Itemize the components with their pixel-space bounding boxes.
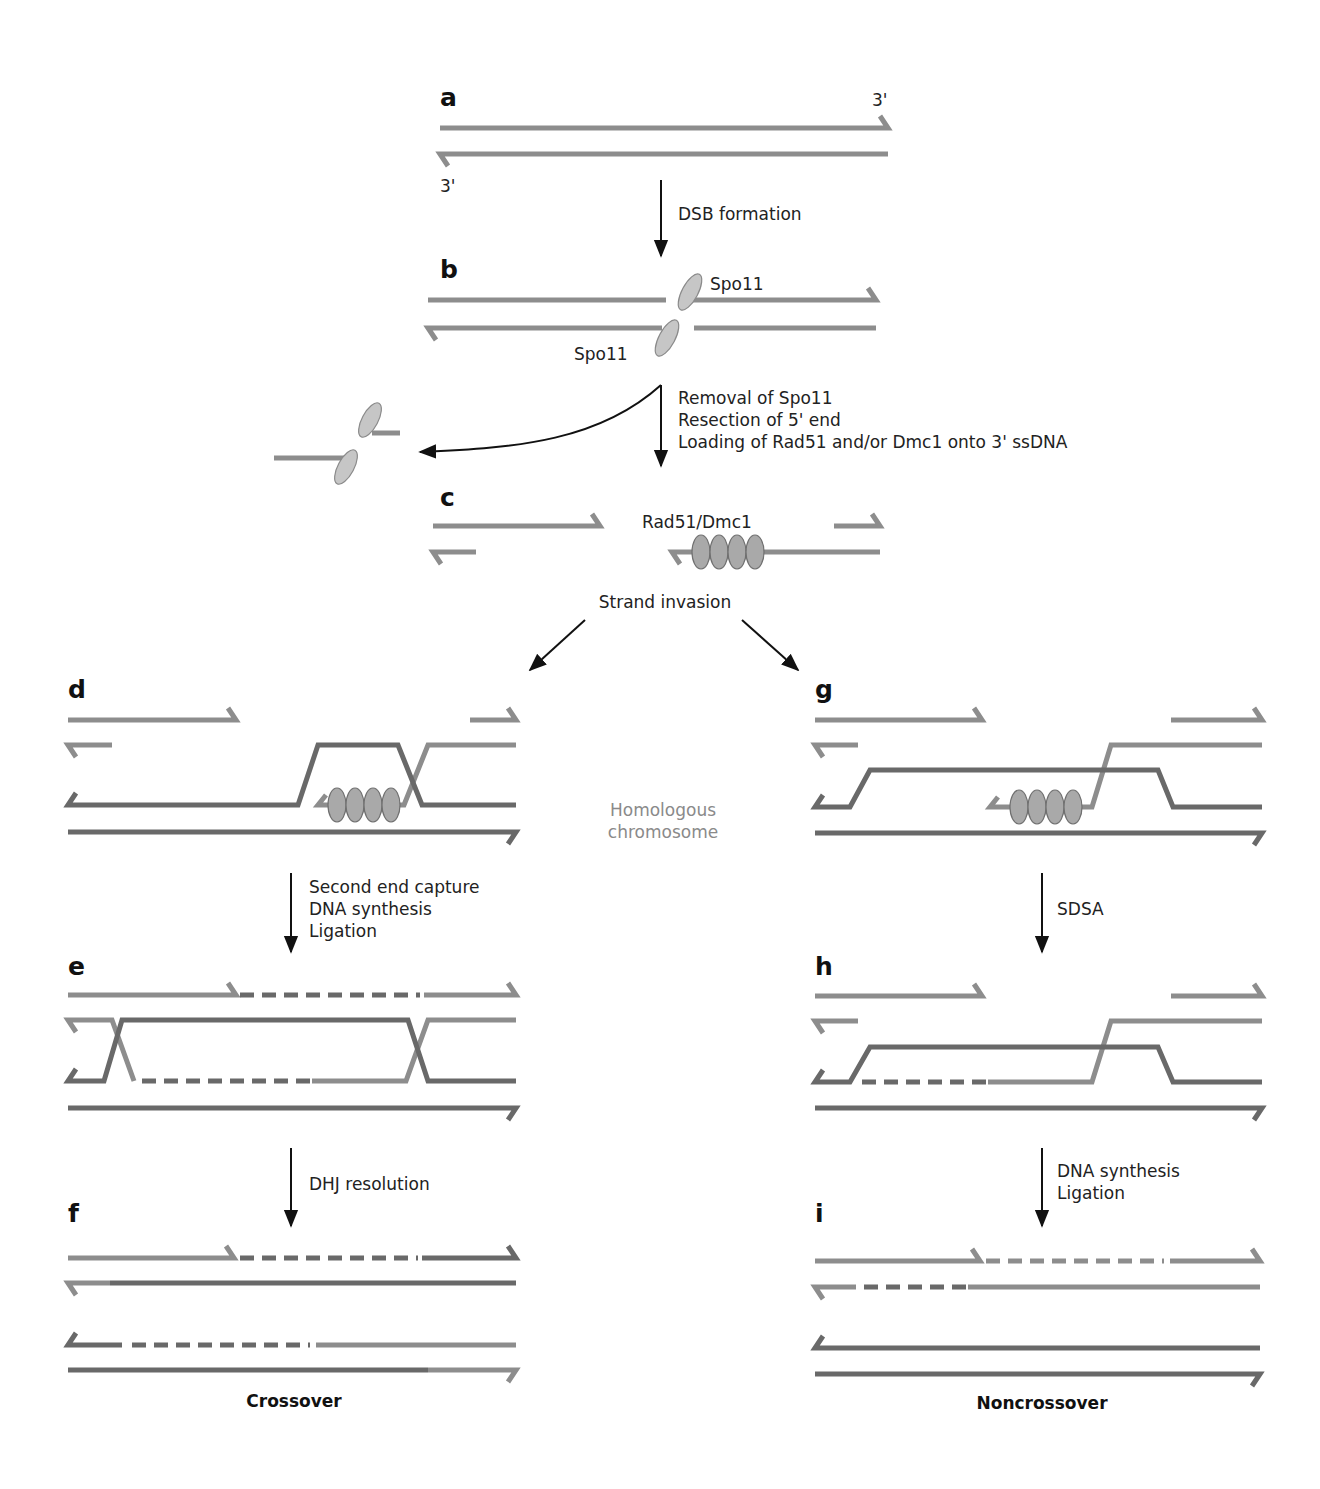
step-label: Ligation bbox=[1057, 1183, 1125, 1203]
dna-strand bbox=[834, 514, 880, 526]
rad51-filament-icon bbox=[692, 535, 764, 569]
dna-strand bbox=[424, 983, 516, 995]
panel-i: i Noncrossover bbox=[815, 1199, 1260, 1413]
step-label: SDSA bbox=[1057, 899, 1104, 919]
strand-invasion-label: Strand invasion bbox=[599, 592, 732, 612]
spo11-label: Spo11 bbox=[710, 274, 764, 294]
panel-f: f Crossover bbox=[68, 1199, 516, 1411]
dna-strand-top bbox=[440, 116, 888, 128]
step-label: DNA synthesis bbox=[1057, 1161, 1180, 1181]
extended-invading-strand bbox=[988, 1021, 1262, 1082]
dna-strand bbox=[815, 1249, 980, 1261]
dna-strand bbox=[815, 708, 982, 720]
homolog-strand bbox=[815, 1108, 1262, 1120]
rad51-dmc1-label: Rad51/Dmc1 bbox=[642, 512, 752, 532]
rad51-filament-icon bbox=[1010, 790, 1082, 824]
spo11-protein-icon bbox=[674, 271, 707, 314]
homolog-strand bbox=[815, 833, 1262, 845]
released-spo11-oligos bbox=[274, 399, 400, 487]
dna-strand bbox=[68, 1333, 122, 1345]
dna-strand bbox=[428, 1370, 516, 1382]
crossover-label: Crossover bbox=[246, 1391, 342, 1411]
dna-strand bbox=[815, 984, 982, 996]
homologous-chromosome-label: Homologous bbox=[610, 800, 716, 820]
panel-letter: c bbox=[440, 483, 455, 512]
dna-strand bbox=[68, 745, 112, 757]
homolog-strand bbox=[815, 1374, 1260, 1386]
dna-strand bbox=[470, 708, 516, 720]
spo11-protein-icon bbox=[330, 446, 362, 487]
dna-strand bbox=[1170, 1249, 1260, 1261]
step-label: Ligation bbox=[309, 921, 377, 941]
dna-strand bbox=[68, 1283, 110, 1295]
noncrossover-label: Noncrossover bbox=[976, 1393, 1108, 1413]
spo11-protein-icon bbox=[651, 317, 684, 360]
panel-a: a 3' 3' bbox=[440, 83, 888, 196]
arrow-down-left-icon bbox=[530, 620, 585, 670]
invading-strand-end bbox=[990, 797, 1010, 807]
dna-strand bbox=[815, 1021, 858, 1033]
dna-strand bbox=[422, 1246, 516, 1258]
homolog-strand-dhj bbox=[68, 1020, 516, 1081]
panel-letter: i bbox=[815, 1199, 824, 1228]
dna-strand bbox=[68, 708, 236, 720]
panel-letter: b bbox=[440, 255, 458, 284]
dna-strand bbox=[428, 328, 662, 340]
step-label: Loading of Rad51 and/or Dmc1 onto 3' ssD… bbox=[678, 432, 1068, 452]
homolog-strand-dloop bbox=[815, 1047, 1262, 1082]
dna-strand bbox=[815, 745, 858, 757]
dna-strand bbox=[68, 1246, 234, 1258]
panel-g: g bbox=[815, 675, 1262, 845]
panel-letter: h bbox=[815, 952, 833, 981]
dna-strand bbox=[433, 514, 600, 526]
three-prime-label: 3' bbox=[872, 90, 888, 110]
panel-c: c Rad51/Dmc1 bbox=[433, 483, 880, 569]
arrow-down-right-icon bbox=[742, 620, 798, 670]
dna-strand bbox=[68, 983, 236, 995]
strand-dhj bbox=[68, 1020, 134, 1081]
homolog-strand bbox=[815, 1336, 1260, 1348]
strand-dhj bbox=[312, 1020, 516, 1081]
three-prime-label: 3' bbox=[440, 176, 456, 196]
curved-arrow-icon bbox=[420, 385, 661, 452]
homolog-strand bbox=[68, 1108, 516, 1120]
step-label: DHJ resolution bbox=[309, 1174, 430, 1194]
dna-strand bbox=[433, 552, 476, 564]
panel-letter: a bbox=[440, 83, 457, 112]
panel-b: b Spo11 Spo11 bbox=[428, 255, 876, 364]
step-label: DNA synthesis bbox=[309, 899, 432, 919]
spo11-label: Spo11 bbox=[574, 344, 628, 364]
homologous-chromosome-label: chromosome bbox=[608, 822, 718, 842]
step-label: DSB formation bbox=[678, 204, 802, 224]
homolog-strand bbox=[68, 832, 516, 844]
panel-e: e bbox=[68, 952, 516, 1120]
homolog-strand-dloop bbox=[68, 745, 516, 805]
dna-strand bbox=[1171, 708, 1262, 720]
recombination-diagram: a 3' 3' DSB formation b Spo11 Spo11 Remo… bbox=[0, 0, 1320, 1489]
rad51-filament-icon bbox=[328, 788, 400, 822]
panel-letter: g bbox=[815, 675, 833, 704]
panel-letter: e bbox=[68, 952, 85, 981]
step-label: Second end capture bbox=[309, 877, 479, 897]
step-label: Resection of 5' end bbox=[678, 410, 841, 430]
dna-strand-bottom bbox=[440, 154, 888, 166]
panel-h: h bbox=[815, 952, 1262, 1120]
panel-d: d bbox=[68, 675, 516, 844]
panel-letter: d bbox=[68, 675, 86, 704]
panel-letter: f bbox=[68, 1199, 80, 1228]
dna-strand bbox=[815, 1287, 856, 1299]
dna-strand bbox=[1171, 984, 1262, 996]
step-label: Removal of Spo11 bbox=[678, 388, 832, 408]
